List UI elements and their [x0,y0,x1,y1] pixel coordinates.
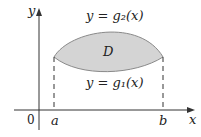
y-axis-arrow-icon [36,8,42,16]
y-axis-label: y [27,3,36,18]
x-axis-label: x [189,112,197,127]
right-bound-label: b [159,113,167,128]
region-diagram: y x 0 a b D y = g₂(x) y = g₁(x) [0,0,201,137]
left-bound-label: a [51,113,59,128]
region-label: D [102,44,114,59]
lower-curve-label: y = g₁(x) [85,75,144,90]
upper-curve-label: y = g₂(x) [85,8,144,23]
origin-label: 0 [27,113,35,127]
